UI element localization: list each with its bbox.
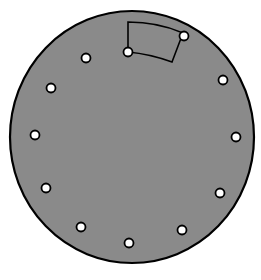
hole-marker (47, 84, 56, 93)
hole-marker (42, 184, 51, 193)
hole-marker (77, 223, 86, 232)
hole-marker (31, 131, 40, 140)
hole-marker (125, 239, 134, 248)
hole-marker (178, 226, 187, 235)
diagram-canvas (0, 0, 261, 280)
hole-marker (216, 189, 225, 198)
hole-marker (124, 48, 133, 57)
hole-marker (180, 32, 189, 41)
perforated-disc-diagram (0, 0, 261, 280)
hole-marker (232, 133, 241, 142)
hole-marker (219, 76, 228, 85)
hole-marker (82, 54, 91, 63)
